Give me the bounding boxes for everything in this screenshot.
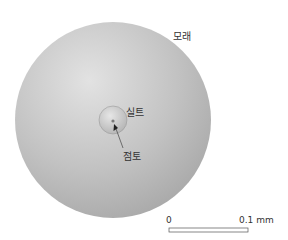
scale-start-label: 0	[166, 215, 172, 225]
clay-label: 점토	[123, 148, 141, 163]
scale-bar	[169, 228, 248, 232]
scale-end-label: 0.1 mm	[239, 215, 274, 225]
silt-label: 실트	[126, 104, 144, 119]
clay-particle	[111, 119, 114, 122]
sand-label: 모래	[173, 28, 191, 43]
particle-size-diagram	[0, 0, 288, 240]
